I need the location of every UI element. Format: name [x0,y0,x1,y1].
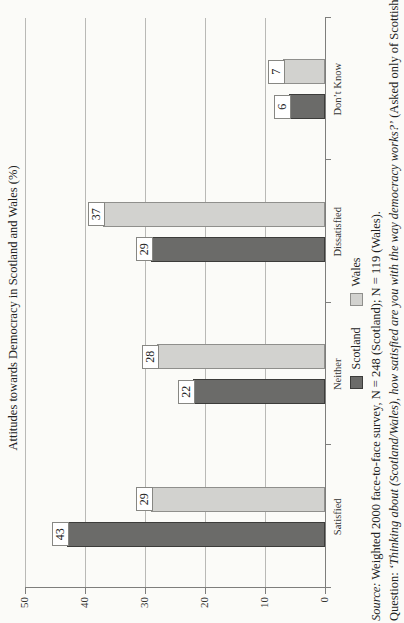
scanned-page: Attitudes towards Democracy in Scotland … [0,0,404,623]
gridline-40 [85,18,86,588]
data-label-wales-satisfied: 29 [136,487,153,511]
legend-swatch-wales [350,293,363,306]
legend-swatch-scotland [350,376,363,389]
data-label-wales-dissatisfied: 37 [88,202,105,226]
value-axis-label-40: 40 [78,597,90,623]
value-axis-tick-10 [265,588,266,594]
data-label-wales-don-t-know: 7 [268,60,285,84]
legend-label-wales: Wales [349,257,364,286]
source-text: Weighted 2000 face-to-face survey, N = 2… [369,211,383,583]
value-axis-label-0: 0 [318,597,330,623]
value-axis-tick-30 [145,588,146,594]
rotated-bar-chart: Attitudes towards Democracy in Scotland … [0,0,404,623]
bar-wales-neither [157,344,325,369]
footnotes: Source: Weighted 2000 face-to-face surve… [367,0,403,621]
question-quote: ‘Thinking about (Scotland/Wales), how sa… [387,121,401,569]
gridline-50 [25,18,26,588]
data-label-scotland-don-t-know: 6 [274,95,291,119]
value-axis-label-30: 30 [138,597,150,623]
value-axis-tick-20 [205,588,206,594]
question-label: Question: [387,569,401,621]
bar-wales-satisfied [151,487,325,512]
data-label-scotland-dissatisfied: 29 [136,237,153,261]
value-axis-tick-40 [85,588,86,594]
value-axis-label-10: 10 [258,597,270,623]
value-axis-tick-50 [25,588,26,594]
category-axis-tick-4 [326,17,331,18]
bar-scotland-dissatisfied [151,237,325,262]
bar-wales-dissatisfied [103,202,325,227]
legend-item-scotland: Scotland [349,328,364,389]
legend: ScotlandWales [347,58,365,588]
value-axis-label-20: 20 [198,597,210,623]
bar-scotland-neither [193,379,325,404]
category-label-dissatisfied: Dissatisfied [332,161,343,304]
category-axis-tick-2 [326,302,331,303]
category-axis-tick-1 [326,445,331,446]
category-axis-tick-3 [326,160,331,161]
category-label-neither: Neither [332,303,343,446]
category-label-don-t-know: Don’t Know [332,18,343,161]
question-line: Question: ‘Thinking about (Scotland/Wale… [385,0,403,621]
value-axis-line [25,587,325,588]
bar-scotland-satisfied [67,522,325,547]
source-label: Source: [369,583,383,621]
plot-area: 01020304050SatisfiedNeitherDissatisfiedD… [0,0,404,623]
category-label-satisfied: Satisfied [332,446,343,589]
data-label-scotland-satisfied: 43 [52,522,69,546]
category-axis-tick-0 [326,587,331,588]
value-axis-label-50: 50 [18,597,30,623]
source-line: Source: Weighted 2000 face-to-face surve… [367,0,385,621]
data-label-wales-neither: 28 [142,345,159,369]
bar-wales-don-t-know [283,59,325,84]
bar-scotland-don-t-know [289,94,325,119]
value-axis-tick-0 [325,588,326,594]
question-suffix: (Asked only of Scottish [387,0,401,121]
data-label-scotland-neither: 22 [178,380,195,404]
legend-label-scotland: Scotland [349,328,364,370]
legend-item-wales: Wales [349,257,364,305]
